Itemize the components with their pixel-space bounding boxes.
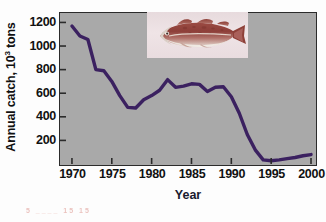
- cod-catch-figure: Annual catch, 103 tons 12001000800600400…: [0, 0, 326, 222]
- y-axis-label-unit: tons: [4, 22, 18, 51]
- y-tick-label: 1200: [18, 15, 56, 29]
- x-axis-label: Year: [59, 188, 317, 202]
- page-bleed-artifact: 5 ____ 15 15: [26, 207, 146, 217]
- y-axis-tick-labels: 12001000800600400200: [17, 0, 56, 222]
- y-axis-label-main: Annual catch, 10: [4, 55, 18, 151]
- y-tick-label: 1000: [18, 39, 56, 53]
- atlantic-cod-photograph: [147, 12, 248, 58]
- x-tick-label: 2000: [289, 167, 326, 181]
- y-tick-label: 200: [18, 133, 56, 147]
- y-axis-label-exponent: 3: [3, 51, 12, 55]
- x-axis-tick-labels: 1970197519801985199019952000: [59, 167, 317, 185]
- y-tick-label: 800: [18, 62, 56, 76]
- y-tick-label: 400: [18, 109, 56, 123]
- y-tick-label: 600: [18, 86, 56, 100]
